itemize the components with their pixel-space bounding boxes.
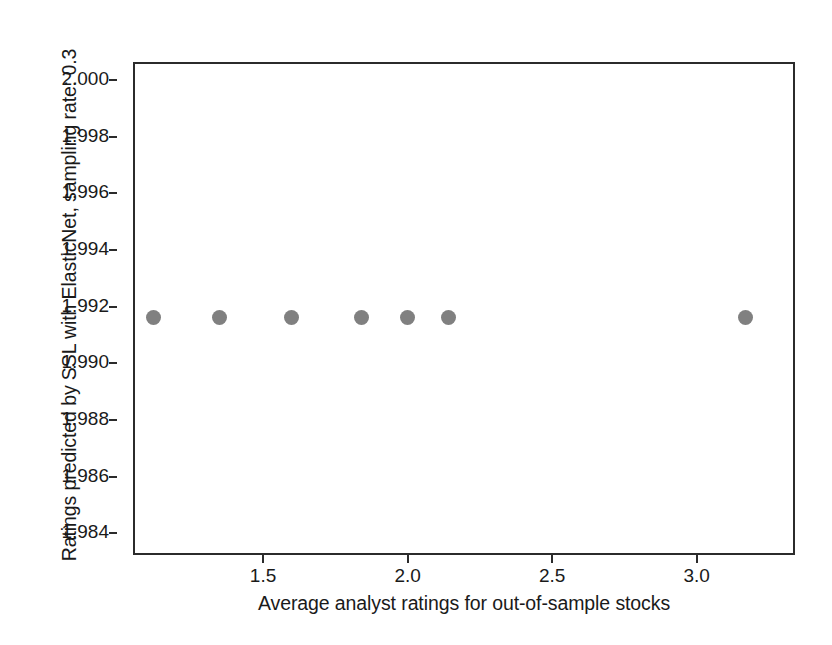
y-tick-label: 1.994 xyxy=(61,238,109,260)
data-point xyxy=(400,310,415,325)
data-point xyxy=(738,310,753,325)
data-point xyxy=(284,310,299,325)
data-point xyxy=(354,310,369,325)
y-tick-label: 1.986 xyxy=(61,465,109,487)
data-point xyxy=(441,310,456,325)
y-tick-mark xyxy=(109,249,117,251)
y-tick-label: 1.996 xyxy=(61,181,109,203)
x-axis-title: Average analyst ratings for out-of-sampl… xyxy=(133,592,795,615)
y-tick-mark xyxy=(109,476,117,478)
x-tick-mark xyxy=(696,555,698,563)
y-tick-label: 1.998 xyxy=(61,125,109,147)
data-point xyxy=(212,310,227,325)
y-tick-mark xyxy=(109,532,117,534)
y-tick-mark xyxy=(109,362,117,364)
x-tick-label: 2.5 xyxy=(512,565,592,587)
y-tick-mark xyxy=(109,419,117,421)
y-tick-label: 1.990 xyxy=(61,351,109,373)
y-tick-mark xyxy=(109,306,117,308)
plot-area: 2.0001.9981.9961.9941.9921.9901.9881.986… xyxy=(133,62,795,555)
scatter-plot-figure: Ratings predicted by SSL with ElasticNet… xyxy=(0,0,832,645)
x-tick-label: 1.5 xyxy=(223,565,303,587)
x-tick-label: 3.0 xyxy=(657,565,737,587)
data-point xyxy=(146,310,161,325)
x-tick-mark xyxy=(262,555,264,563)
x-tick-mark xyxy=(407,555,409,563)
x-tick-mark xyxy=(551,555,553,563)
y-tick-label: 1.992 xyxy=(61,295,109,317)
y-tick-mark xyxy=(109,192,117,194)
x-tick-label: 2.0 xyxy=(368,565,448,587)
y-tick-mark xyxy=(109,136,117,138)
y-tick-label: 1.984 xyxy=(61,521,109,543)
y-tick-mark xyxy=(109,79,117,81)
y-tick-label: 1.988 xyxy=(61,408,109,430)
y-tick-label: 2.000 xyxy=(61,68,109,90)
